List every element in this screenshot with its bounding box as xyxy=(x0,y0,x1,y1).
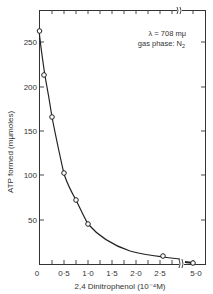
y-tick-50: 50 xyxy=(28,216,37,225)
annotation: λ = 708 mμ gas phase: N 2 xyxy=(138,29,186,49)
y-axis-ticks xyxy=(39,42,205,220)
data-point xyxy=(50,115,55,120)
x-axis-ticks xyxy=(52,260,193,264)
x-tick-2-0: 2·0 xyxy=(130,269,142,278)
data-point xyxy=(42,73,47,78)
data-points xyxy=(37,29,195,266)
y-tick-100: 100 xyxy=(24,171,38,180)
x-tick-0-5: 0·5 xyxy=(58,269,70,278)
x-tick-5-0: 5·0 xyxy=(190,269,202,278)
annotation-gas-phase: gas phase: N xyxy=(138,39,182,48)
data-point xyxy=(161,254,166,259)
y-tick-200: 200 xyxy=(24,83,38,92)
plot-frame xyxy=(39,10,206,265)
x-axis-label: 2,4 Dinitrophenol (10⁻⁴M) xyxy=(74,282,165,291)
fitted-curve xyxy=(39,30,180,259)
annotation-gas-subscript: 2 xyxy=(182,43,185,49)
data-point xyxy=(191,261,196,266)
x-tick-2-5: 2·5 xyxy=(154,269,166,278)
chart: 250 200 150 100 50 0 0·5 1·0 1·5 2·0 2·5… xyxy=(0,0,213,294)
data-point xyxy=(86,222,91,227)
x-tick-0: 0 xyxy=(35,269,40,278)
data-point xyxy=(37,29,42,34)
y-tick-labels: 250 200 150 100 50 xyxy=(24,38,38,225)
x-tick-1-5: 1·5 xyxy=(106,269,118,278)
data-point xyxy=(62,171,67,176)
x-tick-1-0: 1·0 xyxy=(82,269,94,278)
y-axis-label: ATP formed (mμmoles) xyxy=(6,111,15,193)
data-point xyxy=(74,198,79,203)
y-tick-250: 250 xyxy=(24,38,38,47)
y-tick-150: 150 xyxy=(24,127,38,136)
annotation-wavelength: λ = 708 mμ xyxy=(149,29,186,38)
x-tick-labels: 0 0·5 1·0 1·5 2·0 2·5 5·0 xyxy=(35,269,203,278)
